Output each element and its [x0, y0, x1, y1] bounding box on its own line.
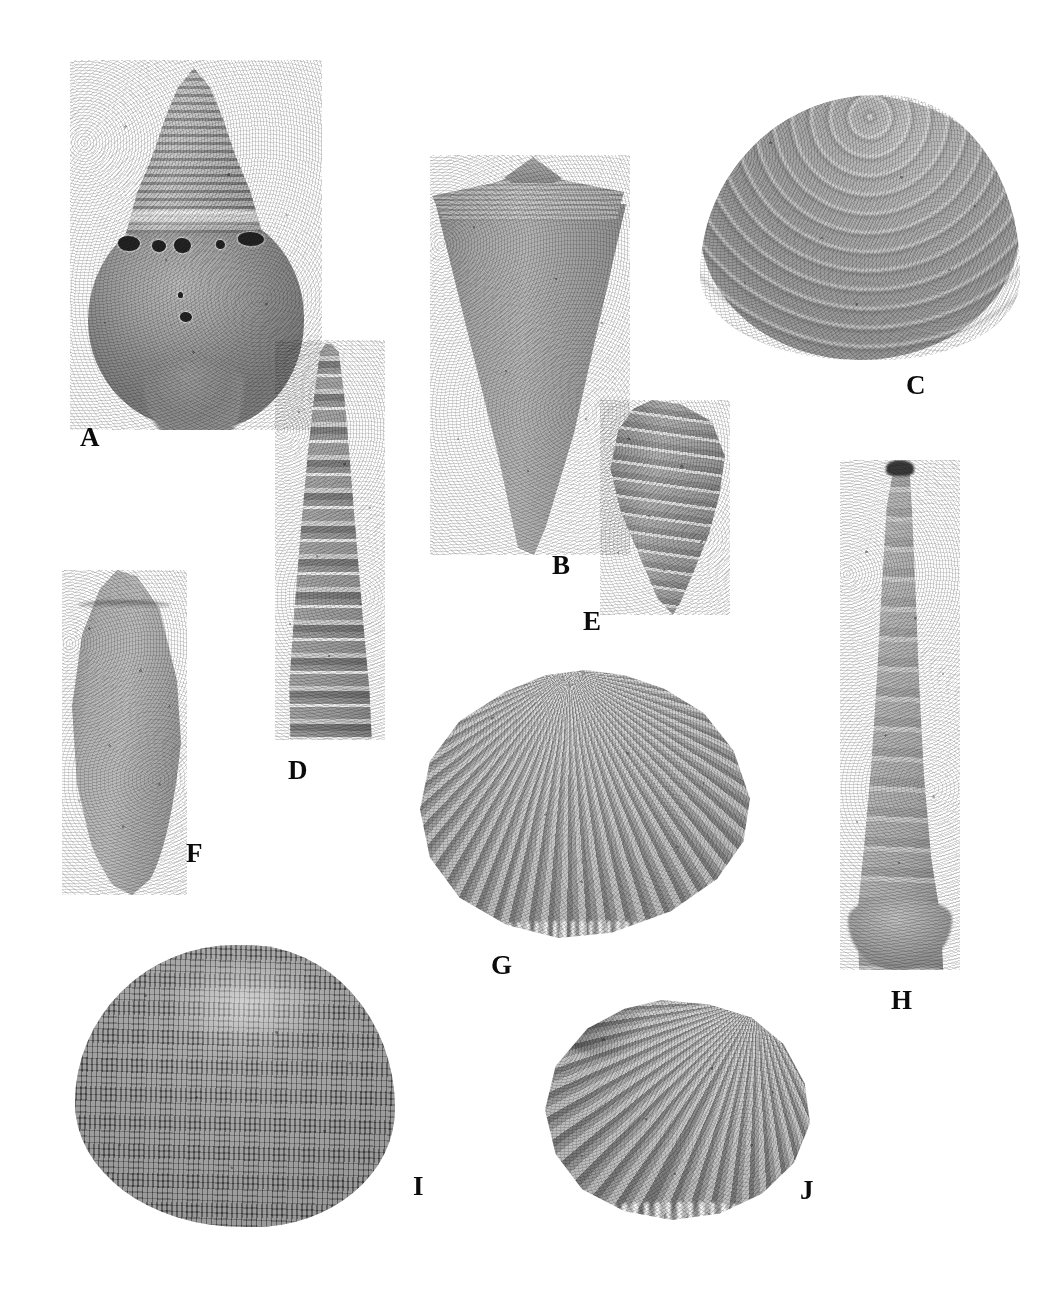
specimen-label-j: J	[800, 1177, 814, 1204]
specimen-h	[840, 460, 960, 970]
specimen-label-h: H	[891, 987, 912, 1014]
specimen-label-e: E	[583, 608, 601, 635]
specimen-e	[600, 400, 730, 615]
specimen-label-c: C	[906, 372, 926, 399]
specimen-label-a: A	[80, 424, 100, 451]
specimen-g	[420, 670, 750, 938]
specimen-f	[62, 570, 187, 895]
specimen-label-b: B	[552, 552, 570, 579]
specimen-c	[700, 95, 1020, 360]
specimen-i	[75, 945, 395, 1227]
specimen-label-i: I	[413, 1173, 424, 1200]
specimen-label-g: G	[491, 952, 512, 979]
specimen-j	[545, 1000, 810, 1220]
specimen-d	[275, 340, 385, 740]
fossil-plate: A B C D E F G H I J	[0, 0, 1039, 1310]
specimen-label-d: D	[288, 757, 308, 784]
specimen-label-f: F	[186, 840, 203, 867]
